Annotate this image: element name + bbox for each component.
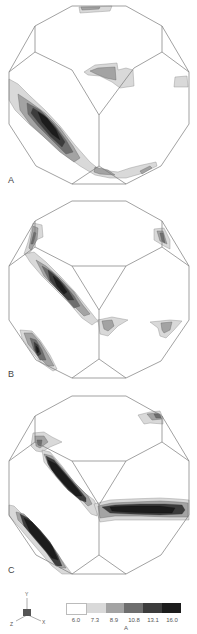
panel-b-plot (9, 201, 189, 378)
panel-a-plot (9, 6, 189, 184)
panel-label-b: B (8, 369, 14, 379)
pole-figure-canvas (0, 0, 197, 634)
axis-label-x: X (42, 619, 45, 625)
cube-icon (23, 609, 31, 616)
panel-a-contours (9, 6, 188, 178)
colorbar-bin-3 (106, 603, 125, 613)
colorbar-bin-5 (143, 603, 162, 613)
panel-b-contours (20, 223, 182, 371)
colorbar-bin-6 (162, 603, 181, 613)
axis-label-y: Y (25, 591, 28, 597)
colorbar-tick-4: 10.8 (128, 617, 140, 623)
colorbar-tick-5: 13.1 (147, 617, 159, 623)
axis-label-z: Z (10, 621, 13, 627)
colorbar-bin-2 (87, 603, 106, 613)
colorbar-unit: A (124, 625, 128, 631)
panel-label-c: C (8, 565, 15, 575)
colorbar-tick-3: 8.9 (110, 617, 118, 623)
colorbar-tick-6: 16.0 (166, 617, 178, 623)
panel-c-plot (9, 396, 189, 574)
axes-triad (16, 598, 41, 621)
colorbar-tick-1: 6.0 (72, 617, 80, 623)
colorbar-bin-4 (124, 603, 143, 613)
panel-label-a: A (8, 175, 14, 185)
colorbar (66, 603, 181, 613)
colorbar-bin-1 (66, 603, 87, 615)
colorbar-tick-2: 7.3 (91, 617, 99, 623)
